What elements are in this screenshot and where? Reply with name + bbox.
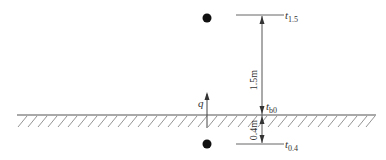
diagram-canvas: t1.5 tb0 t0.4 q 1.5m 0.4m: [0, 0, 386, 160]
label-t-0-4: t0.4: [285, 138, 298, 153]
dimension-label-0-4m: 0.4m: [248, 120, 259, 141]
arrow-down-surface-icon: [260, 106, 265, 114]
label-t-0: tb0: [266, 100, 277, 115]
arrow-up-top-icon: [260, 16, 265, 24]
label-t-1-5: t1.5: [285, 9, 298, 24]
ground-hatching: [18, 116, 375, 127]
sensor-dot-above: [203, 14, 212, 23]
dimension-label-1-5m: 1.5m: [248, 70, 259, 91]
sensor-dot-below: [203, 140, 212, 149]
heat-flux-arrow-icon: [205, 92, 210, 100]
arrow-down-bottom-icon: [260, 135, 265, 143]
label-heat-flux-q: q: [198, 97, 204, 109]
